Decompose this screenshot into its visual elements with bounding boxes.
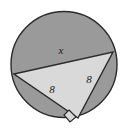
left-leg-length-label: 8 (49, 83, 55, 95)
hypotenuse-label: x (58, 44, 64, 56)
right-leg-length-label: 8 (86, 73, 92, 85)
geometry-figure: x 8 8 (0, 0, 127, 129)
geometry-canvas: x 8 8 (0, 0, 127, 129)
